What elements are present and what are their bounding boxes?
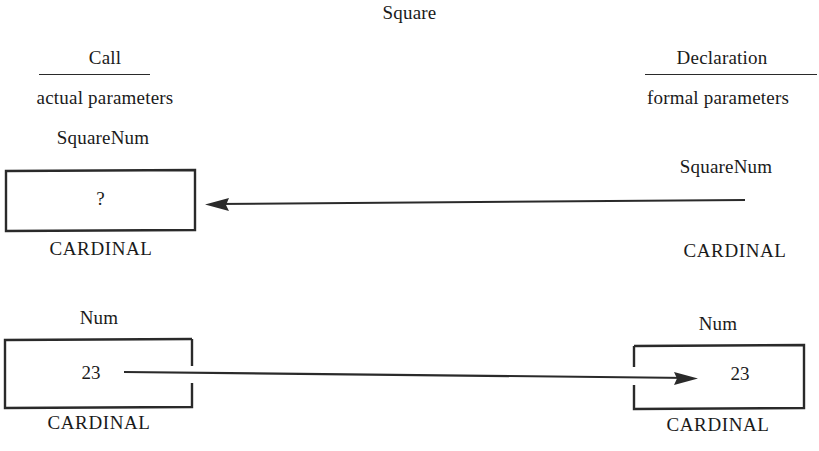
call-header-subtitle: actual parameters [5, 86, 205, 110]
call-header-title: Call [30, 46, 180, 70]
row-squarenum-right-name: SquareNum [656, 156, 796, 178]
row-num-right-name: Num [648, 313, 788, 335]
row-squarenum-arrow [205, 198, 745, 211]
row-num-left-value: 23 [6, 362, 176, 384]
row-num-right-type: CARDINAL [648, 414, 788, 436]
declaration-header-subtitle: formal parameters [617, 86, 819, 110]
row-num-left-type: CARDINAL [6, 412, 192, 434]
declaration-header-title: Declaration [632, 46, 812, 70]
diagram-title: Square [0, 2, 819, 24]
row-num-left-name: Num [6, 307, 192, 329]
row-num-right-value: 23 [685, 363, 795, 385]
declaration-header-rule [645, 74, 817, 75]
row-squarenum-right-type: CARDINAL [660, 240, 810, 262]
row-num-arrow [124, 372, 698, 385]
call-header-rule [39, 74, 150, 75]
row-squarenum-left-name: SquareNum [10, 127, 196, 149]
row-squarenum-left-type: CARDINAL [8, 238, 194, 260]
row-squarenum-left-value: ? [6, 188, 195, 210]
diagram-canvas: Square Call actual parameters Declaratio… [0, 0, 819, 451]
